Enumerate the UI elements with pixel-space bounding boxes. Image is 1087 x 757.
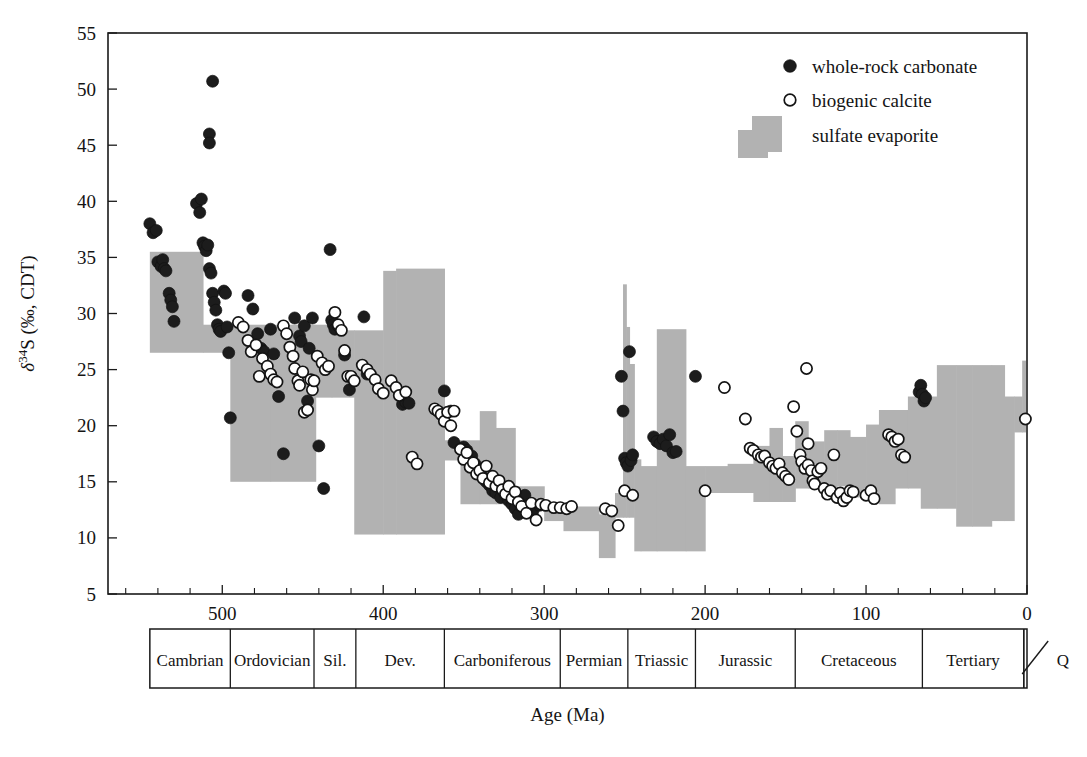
mass-number: 34	[15, 349, 30, 363]
legend-label-sulfate-evaporite: sulfate evaporite	[812, 125, 938, 146]
data-point-calcite	[531, 514, 542, 525]
data-point-calcite	[339, 345, 350, 356]
figure-root: 5101520253035404550555004003002001000 wh…	[0, 0, 1087, 757]
data-point-carbonate	[210, 304, 222, 316]
data-point-calcite	[613, 520, 624, 531]
period-label-sil: Sil.	[323, 651, 346, 670]
data-point-carbonate	[166, 301, 178, 313]
data-point-calcite	[250, 339, 261, 350]
period-label-carboniferous: Carboniferous	[454, 651, 551, 670]
legend-label-whole-rock-carbonate: whole-rock carbonate	[812, 56, 977, 77]
data-point-carbonate	[623, 346, 635, 358]
data-point-carbonate	[203, 137, 215, 149]
y-tick-label: 55	[77, 23, 96, 44]
data-point-calcite	[606, 505, 617, 516]
data-point-calcite	[302, 404, 313, 415]
data-point-carbonate	[265, 323, 277, 335]
data-point-calcite	[700, 485, 711, 496]
data-point-carbonate	[273, 391, 285, 403]
evaporite-segment	[686, 466, 706, 551]
period-label-cambrian: Cambrian	[157, 651, 225, 670]
data-point-carbonate	[150, 224, 162, 236]
data-point-calcite	[400, 386, 411, 397]
data-point-carbonate	[627, 449, 639, 461]
y-tick-label: 10	[77, 527, 96, 548]
data-point-calcite	[815, 463, 826, 474]
data-point-carbonate	[358, 311, 370, 323]
data-point-calcite	[719, 382, 730, 393]
data-point-carbonate	[670, 446, 682, 458]
data-point-calcite	[254, 371, 265, 382]
chart-background	[0, 0, 1087, 757]
data-point-carbonate	[313, 440, 325, 452]
x-tick-label: 100	[852, 603, 881, 624]
data-point-calcite	[378, 388, 389, 399]
period-label-jurassic: Jurassic	[718, 651, 772, 670]
data-point-carbonate	[664, 429, 676, 441]
legend-marker-open-circle	[784, 94, 796, 106]
data-point-carbonate	[920, 392, 932, 404]
data-point-calcite	[893, 434, 904, 445]
y-tick-label: 45	[77, 135, 96, 156]
evaporite-segment	[599, 514, 616, 558]
data-point-calcite	[828, 449, 839, 460]
data-point-carbonate	[205, 267, 217, 279]
period-label-dev: Dev.	[384, 651, 415, 670]
period-label-cretaceous: Cretaceous	[821, 651, 897, 670]
data-point-calcite	[801, 363, 812, 374]
data-point-carbonate	[438, 385, 450, 397]
x-tick-label: 400	[369, 603, 398, 624]
data-point-calcite	[411, 458, 422, 469]
y-tick-label: 40	[77, 191, 96, 212]
period-label-triassic: Triassic	[635, 651, 689, 670]
data-point-carbonate	[195, 193, 207, 205]
data-point-calcite	[329, 307, 340, 318]
data-point-calcite	[323, 361, 334, 372]
data-point-calcite	[848, 486, 859, 497]
data-point-carbonate	[277, 448, 289, 460]
data-point-calcite	[740, 413, 751, 424]
data-point-carbonate	[268, 348, 280, 360]
evaporite-segment	[937, 365, 957, 509]
data-point-carbonate	[168, 315, 180, 327]
data-point-carbonate	[289, 312, 301, 324]
data-point-calcite	[1020, 413, 1031, 424]
data-point-carbonate	[194, 207, 206, 219]
y-tick-label: 25	[77, 359, 96, 380]
data-point-calcite	[349, 375, 360, 386]
y-tick-label: 15	[77, 471, 96, 492]
data-point-calcite	[791, 426, 802, 437]
data-point-carbonate	[221, 321, 233, 333]
data-point-calcite	[281, 328, 292, 339]
x-tick-label: 0	[1022, 603, 1032, 624]
data-point-carbonate	[202, 239, 214, 251]
data-point-calcite	[566, 501, 577, 512]
data-point-carbonate	[306, 312, 318, 324]
legend-label-biogenic-calcite: biogenic calcite	[812, 90, 932, 111]
data-point-calcite	[803, 438, 814, 449]
x-tick-label: 200	[691, 603, 720, 624]
y-tick-label: 50	[77, 79, 96, 100]
data-point-carbonate	[403, 397, 415, 409]
y-axis-title-rest: S (‰, CDT)	[17, 255, 39, 349]
data-point-carbonate	[617, 405, 629, 417]
data-point-calcite	[271, 376, 282, 387]
data-point-carbonate	[207, 75, 219, 87]
data-point-calcite	[481, 460, 492, 471]
evaporite-segment	[641, 466, 658, 551]
period-label-tertiary: Tertiary	[946, 651, 1000, 670]
x-axis-title: Age (Ma)	[530, 704, 604, 726]
y-tick-label: 30	[77, 303, 96, 324]
evaporite-segment	[956, 365, 973, 527]
data-point-calcite	[294, 380, 305, 391]
evaporite-segment	[972, 365, 992, 527]
data-point-carbonate	[324, 244, 336, 256]
x-tick-label: 300	[530, 603, 559, 624]
evaporite-segment	[728, 464, 754, 493]
data-point-calcite	[448, 406, 459, 417]
legend-marker-filled-circle	[784, 60, 797, 73]
data-point-calcite	[869, 493, 880, 504]
data-point-carbonate	[318, 483, 330, 495]
data-point-calcite	[783, 474, 794, 485]
y-tick-label: 5	[87, 584, 97, 605]
